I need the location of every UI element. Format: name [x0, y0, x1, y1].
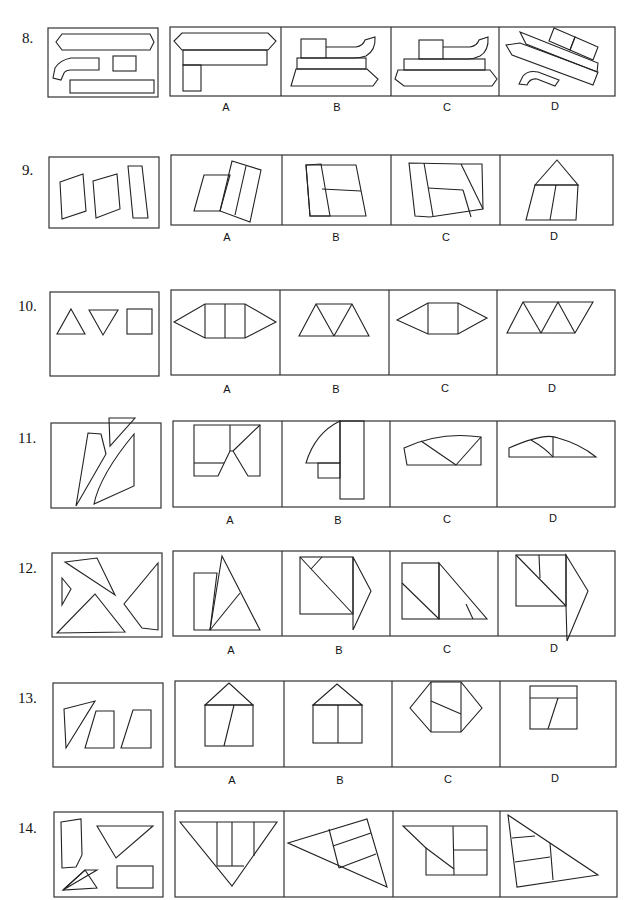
q14-options-strip[interactable]: [175, 811, 617, 897]
q12-label-b: B: [329, 644, 349, 656]
q12-given-box: [52, 553, 162, 637]
q8-label-a: A: [216, 101, 236, 113]
q8-label-d: D: [545, 100, 565, 112]
q11-given-box: [51, 418, 161, 508]
q11-label-c: C: [437, 513, 457, 525]
q13-label-c: C: [438, 773, 458, 785]
q9-given-box: [49, 157, 159, 228]
q10-label-c: C: [435, 382, 455, 394]
q13-label-d: D: [545, 772, 565, 784]
q12-label-d: D: [544, 642, 564, 654]
q13-label-b: B: [330, 774, 350, 786]
q11-label-d: D: [543, 512, 563, 524]
q12-options-strip[interactable]: [173, 551, 615, 641]
q9-label-b: B: [326, 231, 346, 243]
q13-given-box: [53, 683, 163, 767]
q10-label-b: B: [326, 383, 346, 395]
q13-options-strip[interactable]: [175, 681, 616, 767]
q8-label-b: B: [327, 101, 347, 113]
q10-given-box: [50, 292, 159, 376]
q11-options-strip[interactable]: [173, 421, 615, 507]
q9-options-strip[interactable]: [171, 155, 613, 225]
figures-canvas: [0, 0, 633, 900]
q13-label-a: A: [222, 774, 242, 786]
q9-label-d: D: [544, 230, 564, 242]
q14-given-box: [54, 812, 163, 897]
q8-given-box: [48, 28, 158, 97]
q10-label-a: A: [217, 383, 237, 395]
q8-label-c: C: [437, 101, 457, 113]
q11-label-b: B: [328, 514, 348, 526]
q11-label-a: A: [220, 514, 240, 526]
q9-label-c: C: [436, 231, 456, 243]
q12-label-a: A: [221, 644, 241, 656]
q10-options-strip[interactable]: [171, 290, 615, 375]
q9-label-a: A: [217, 231, 237, 243]
q12-label-c: C: [437, 643, 457, 655]
q8-options-strip[interactable]: [170, 27, 615, 96]
q10-label-d: D: [542, 382, 562, 394]
